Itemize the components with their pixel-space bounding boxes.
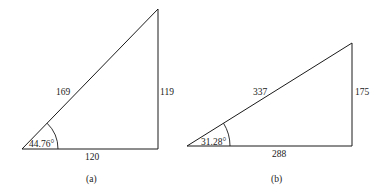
triangle-a-caption: (a) <box>86 174 97 185</box>
triangle-b-caption: (b) <box>271 174 282 185</box>
triangle-a-hypotenuse-label: 169 <box>56 87 71 97</box>
triangle-b-adjacent-label: 288 <box>272 149 287 159</box>
triangle-b-angle-label: 31.28° <box>201 137 226 147</box>
triangle-a-adjacent-label: 120 <box>85 152 100 162</box>
triangle-b-opposite-label: 175 <box>355 87 370 97</box>
triangle-b: 337 175 288 31.28° (b) <box>187 43 370 185</box>
triangle-a-hypotenuse <box>22 9 158 149</box>
triangle-b-hypotenuse <box>187 43 352 146</box>
triangle-b-hypotenuse-label: 337 <box>253 87 268 97</box>
triangle-a: 169 119 120 44.76° (a) <box>22 9 174 185</box>
triangles-figure: 169 119 120 44.76° (a) 337 175 288 31.28… <box>0 0 384 194</box>
triangle-a-opposite-label: 119 <box>160 87 174 97</box>
triangle-a-angle-label: 44.76° <box>29 139 54 149</box>
